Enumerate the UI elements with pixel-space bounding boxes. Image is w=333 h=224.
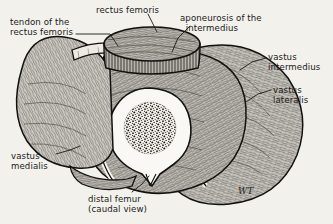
label-vastus-intermedius: vastus intermedius xyxy=(268,52,320,73)
label-tendon-rectus-femoris: tendon of the rectus femoris xyxy=(10,17,73,38)
artist-signature: WT xyxy=(238,186,253,196)
label-vastus-lateralis: vastus lateralis xyxy=(273,85,308,106)
label-distal-femur: distal femur (caudal view) xyxy=(88,194,147,215)
label-rectus-femoris: rectus femoris xyxy=(96,5,159,15)
rectus-femoris-structure xyxy=(104,27,200,74)
anatomical-figure: tendon of the rectus femoris rectus femo… xyxy=(0,0,333,224)
label-aponeurosis-intermedius: aponeurosis of the intermedius xyxy=(180,13,262,34)
label-vastus-medialis: vastus medialis xyxy=(11,151,48,172)
